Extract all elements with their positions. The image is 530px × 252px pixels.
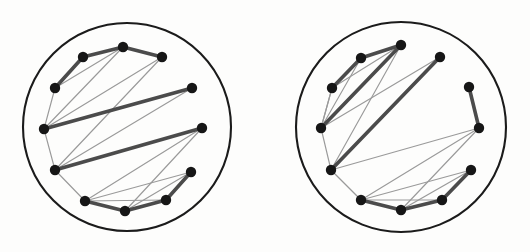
graph-edge-thin bbox=[55, 88, 192, 170]
graph-edge-thick bbox=[166, 172, 191, 200]
graph-vertex bbox=[118, 42, 128, 52]
panels-group bbox=[23, 22, 506, 232]
graph-edge-thick bbox=[85, 201, 125, 211]
graph-edge-thick bbox=[361, 200, 401, 210]
graph-vertex bbox=[78, 52, 88, 62]
graph-vertex bbox=[464, 82, 474, 92]
graph-vertex bbox=[187, 83, 197, 93]
graph-edge-thick bbox=[55, 128, 202, 170]
graph-vertex bbox=[327, 83, 337, 93]
graph-vertex bbox=[120, 206, 130, 216]
graph-edge-thin bbox=[44, 129, 55, 170]
graph-vertex bbox=[435, 52, 445, 62]
graph-vertex bbox=[356, 53, 366, 63]
graph-edge-thin bbox=[401, 170, 471, 210]
graph-vertex bbox=[161, 195, 171, 205]
graph-vertex bbox=[39, 124, 49, 134]
graph-edge-thin bbox=[331, 170, 361, 200]
graph-vertex bbox=[437, 195, 447, 205]
graph-edge-thin bbox=[85, 128, 202, 201]
right-panel bbox=[296, 22, 506, 232]
graph-edge-thin bbox=[125, 172, 191, 211]
graph-edge-thick bbox=[83, 47, 123, 57]
graph-edge-thick bbox=[44, 88, 192, 129]
graph-vertex bbox=[197, 123, 207, 133]
graph-edge-thick bbox=[469, 87, 479, 128]
graph-vertex bbox=[316, 123, 326, 133]
graph-vertex bbox=[326, 165, 336, 175]
graph-edge-thick bbox=[401, 200, 442, 210]
graph-vertex bbox=[50, 165, 60, 175]
graph-vertex bbox=[466, 165, 476, 175]
graph-vertex bbox=[396, 205, 406, 215]
graph-edge-thin bbox=[55, 170, 85, 201]
graph-vertex bbox=[474, 123, 484, 133]
graph-vertex bbox=[80, 196, 90, 206]
figure-root bbox=[0, 0, 530, 252]
graph-edge-thick bbox=[55, 57, 83, 88]
graph-edge-thin bbox=[85, 200, 166, 201]
graph-edge-thick bbox=[125, 200, 166, 211]
thick-edges-group bbox=[321, 45, 479, 210]
graph-vertex bbox=[50, 83, 60, 93]
left-panel bbox=[23, 23, 231, 231]
graph-vertex bbox=[157, 52, 167, 62]
diagram-canvas bbox=[0, 0, 530, 252]
graph-vertex bbox=[186, 167, 196, 177]
graph-edge-thick bbox=[123, 47, 162, 57]
graph-edge-thin bbox=[321, 128, 331, 170]
graph-vertex bbox=[396, 40, 406, 50]
graph-vertex bbox=[356, 195, 366, 205]
